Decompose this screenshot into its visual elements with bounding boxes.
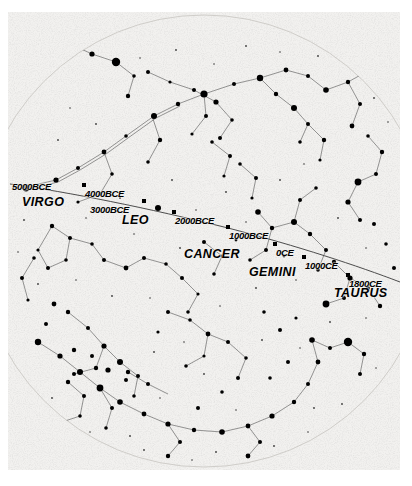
sky-field: 5000BCE 4000BCE 3000BCE 2000BCE 1000BCE … xyxy=(8,12,400,470)
sky-canvas xyxy=(8,12,400,470)
star-chart: 5000BCE 4000BCE 3000BCE 2000BCE 1000BCE … xyxy=(0,0,412,486)
